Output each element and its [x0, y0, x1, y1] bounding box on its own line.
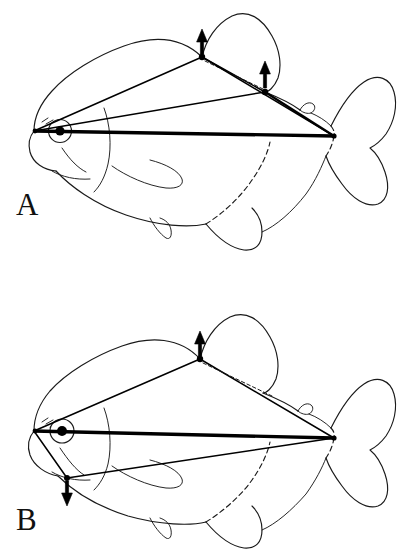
standard-length-line: [34, 431, 334, 438]
caudal-peduncle-lower-dashed: [326, 438, 334, 458]
dorsal-profile-front: [34, 340, 200, 431]
caudal-fin: [326, 77, 396, 204]
landmark-snout-tip: [33, 429, 38, 434]
panel-b: B: [0, 280, 406, 558]
anal-fin-base-dashed: [206, 142, 270, 224]
ventral-isthmus-arrow: [62, 481, 73, 506]
panel-a-drawing: A: [0, 0, 406, 280]
anal-fin: [206, 506, 262, 548]
opercle-edge: [94, 408, 110, 490]
caudal-peduncle-lower-dashed: [326, 136, 334, 156]
dorsal-fin-origin-arrow: [195, 331, 206, 356]
panel-a-label: A: [16, 187, 39, 222]
ventral-profile-rear: [262, 156, 326, 232]
figure-root: A: [0, 0, 406, 558]
ventral-profile-rear: [262, 458, 326, 530]
dorsal-base-dashed: [203, 363, 272, 396]
dorsal-fin-origin-arrow: [197, 29, 208, 54]
pectoral-fin: [112, 160, 182, 188]
pelvic-fin: [150, 218, 171, 239]
adipose-fin: [298, 404, 313, 415]
panel-b-drawing: B: [0, 280, 406, 558]
landmark-snout-tip: [33, 129, 38, 134]
landmark-dorsal-fin-insertion: [262, 89, 268, 95]
preopercle-edge: [60, 448, 84, 475]
predorsal-line: [34, 57, 202, 131]
snout-to-dorsal-insertion-line: [34, 92, 265, 131]
ventral-to-peduncle-line: [67, 438, 334, 478]
landmark-dorsal-fin-origin: [197, 356, 203, 362]
dorsal-base-dashed: [205, 61, 263, 89]
pectoral-fin: [112, 460, 182, 488]
panel-b-label: B: [16, 502, 37, 537]
panel-a: A: [0, 0, 406, 280]
landmark-ventral-isthmus-point: [64, 475, 70, 481]
adipose-fin: [300, 103, 315, 114]
predorsal-line: [34, 359, 200, 431]
dorsal-insertion-to-peduncle-line: [265, 92, 334, 136]
landmark-caudal-peduncle: [331, 435, 336, 440]
dorsal-profile-rear: [263, 393, 298, 411]
ventral-profile: [58, 476, 206, 524]
caudal-fin: [326, 379, 396, 506]
landmark-caudal-peduncle: [331, 133, 336, 138]
preopercle-edge: [62, 148, 86, 172]
dorsal-fin-insertion-arrow: [260, 61, 271, 88]
anal-fin-base-dashed: [206, 442, 270, 522]
anal-fin: [206, 208, 262, 250]
landmark-dorsal-fin-origin: [199, 54, 205, 60]
standard-length-line: [34, 131, 334, 136]
